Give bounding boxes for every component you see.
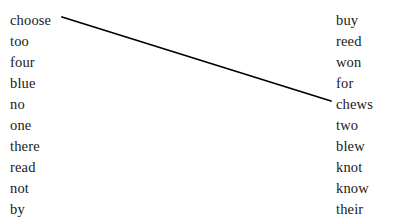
list-item[interactable]: no — [10, 94, 51, 115]
list-item[interactable]: their — [336, 199, 373, 220]
list-item[interactable]: by — [10, 199, 51, 220]
list-item[interactable]: choose — [10, 10, 51, 31]
list-item[interactable]: four — [10, 52, 51, 73]
list-item[interactable]: blue — [10, 73, 51, 94]
list-item[interactable]: too — [10, 31, 51, 52]
list-item[interactable]: buy — [336, 10, 373, 31]
list-item[interactable]: one — [10, 115, 51, 136]
list-item[interactable]: read — [10, 157, 51, 178]
list-item[interactable]: not — [10, 178, 51, 199]
list-item[interactable]: know — [336, 178, 373, 199]
list-item[interactable]: there — [10, 136, 51, 157]
list-item[interactable]: blew — [336, 136, 373, 157]
list-item[interactable]: knot — [336, 157, 373, 178]
homophone-matching-worksheet: choose too four blue no one there read n… — [0, 0, 397, 220]
list-item[interactable]: reed — [336, 31, 373, 52]
left-word-column: choose too four blue no one there read n… — [10, 10, 51, 220]
list-item[interactable]: for — [336, 73, 373, 94]
list-item[interactable]: chews — [336, 94, 373, 115]
right-word-column: buy reed won for chews two blew knot kno… — [336, 10, 373, 220]
connector-group — [62, 17, 331, 101]
list-item[interactable]: won — [336, 52, 373, 73]
list-item[interactable]: two — [336, 115, 373, 136]
match-line-choose-to-chews[interactable] — [62, 17, 331, 101]
